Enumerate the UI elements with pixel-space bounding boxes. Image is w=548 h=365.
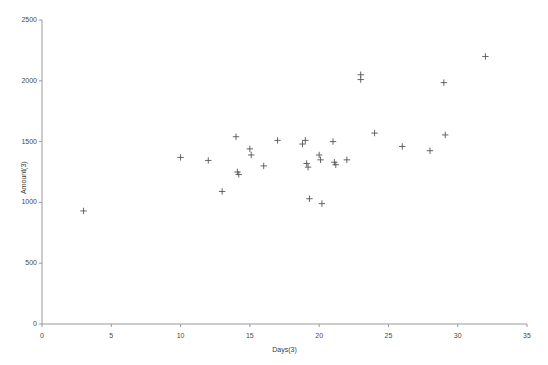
x-tick-label: 10 — [166, 332, 196, 339]
data-point — [317, 157, 323, 163]
data-point — [399, 143, 405, 149]
data-point — [274, 137, 280, 143]
x-tick-label: 15 — [235, 332, 265, 339]
y-tick-label: 2000 — [21, 77, 37, 84]
data-point — [247, 146, 253, 152]
data-point — [316, 152, 322, 158]
scatter-plot-figure: 05001000150020002500 05101520253035 Amou… — [0, 0, 548, 365]
data-point — [299, 141, 305, 147]
data-point — [371, 130, 377, 136]
y-tick-label: 0 — [33, 320, 37, 327]
data-point — [305, 164, 311, 170]
data-point — [442, 132, 448, 138]
data-point — [302, 137, 308, 143]
data-point — [358, 72, 364, 78]
data-point — [344, 157, 350, 163]
y-axis-title: Amount(3) — [20, 161, 27, 194]
data-point — [233, 134, 239, 140]
y-tick-label: 500 — [25, 259, 37, 266]
data-point — [330, 138, 336, 144]
axis-lines — [42, 20, 527, 324]
data-point — [177, 154, 183, 160]
tick-marks — [39, 20, 527, 327]
data-point — [303, 160, 309, 166]
data-point — [80, 208, 86, 214]
x-tick-label: 20 — [304, 332, 334, 339]
data-point — [441, 79, 447, 85]
y-tick-label: 1500 — [21, 138, 37, 145]
data-point — [248, 152, 254, 158]
x-tick-label: 25 — [373, 332, 403, 339]
x-tick-label: 5 — [96, 332, 126, 339]
data-point — [219, 188, 225, 194]
x-axis-title: Days(3) — [245, 346, 325, 353]
x-tick-label: 35 — [512, 332, 542, 339]
data-point — [482, 53, 488, 59]
data-point — [319, 200, 325, 206]
y-tick-label: 2500 — [21, 16, 37, 23]
data-point — [205, 157, 211, 163]
y-tick-label: 1000 — [21, 198, 37, 205]
data-point — [306, 196, 312, 202]
plot-canvas — [0, 0, 548, 365]
x-tick-label: 30 — [443, 332, 473, 339]
x-tick-label: 0 — [27, 332, 57, 339]
data-point — [427, 148, 433, 154]
data-point — [261, 163, 267, 169]
data-point-markers — [80, 53, 488, 214]
